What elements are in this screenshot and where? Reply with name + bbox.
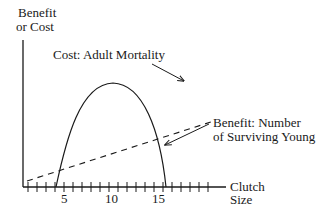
- chart-canvas: [0, 0, 333, 221]
- x-axis-ticks: [28, 182, 208, 192]
- cost-arrow: [152, 64, 184, 81]
- benefit-arrow: [165, 124, 209, 145]
- cost-line: [27, 121, 214, 181]
- benefit-curve: [56, 83, 166, 187]
